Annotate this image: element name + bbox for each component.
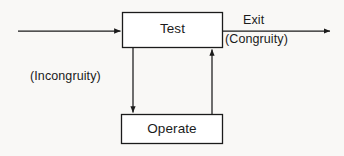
diagram-canvas: Test Operate Exit (Congruity) (Incongrui… — [0, 0, 344, 156]
edge-congruity-label: (Congruity) — [225, 32, 288, 46]
node-operate-label: Operate — [121, 121, 223, 136]
edge-exit-label: Exit — [243, 13, 264, 27]
edge-incongruity-label: (Incongruity) — [30, 69, 101, 83]
node-test-label: Test — [122, 21, 223, 36]
